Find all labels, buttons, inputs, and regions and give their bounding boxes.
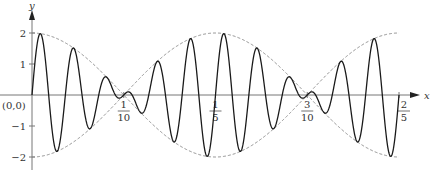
y-tick-label: 2 — [20, 28, 26, 39]
x-tick-denominator: 10 — [301, 112, 314, 123]
x-tick-numerator: 1 — [121, 99, 127, 110]
axes: x y (0,0) — [0, 0, 430, 170]
x-axis-label: x — [424, 90, 430, 101]
chart-plot: x y (0,0) 21−1−2 1101531025 — [0, 0, 431, 178]
y-axis-label: y — [28, 0, 35, 11]
y-tick-label: −2 — [11, 152, 26, 163]
x-tick-denominator: 5 — [401, 112, 407, 123]
y-tick-label: 1 — [20, 59, 26, 70]
x-tick-numerator: 3 — [304, 99, 310, 110]
origin-label: (0,0) — [2, 100, 26, 111]
x-axis-arrow-icon — [410, 92, 420, 98]
y-axis-arrow-icon — [29, 10, 35, 20]
x-tick-numerator: 2 — [401, 99, 407, 110]
x-tick-denominator: 10 — [117, 112, 130, 123]
y-tick-label: −1 — [11, 121, 26, 132]
